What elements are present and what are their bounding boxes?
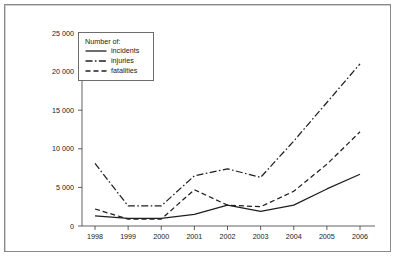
x-tick-label: 1999 — [120, 232, 136, 241]
series-line-injuries — [95, 64, 360, 206]
legend-label: fatalities — [111, 66, 137, 76]
legend-entry-list: incidentsinjuriesfatalities — [85, 46, 153, 76]
x-tick-label: 2003 — [253, 232, 269, 241]
x-tick-label: 2005 — [319, 232, 335, 241]
legend-swatch-fatalities — [85, 67, 107, 75]
legend-entry-fatalities: fatalities — [85, 66, 153, 76]
x-tick-label: 2006 — [352, 232, 368, 241]
legend-swatch-incidents — [85, 47, 107, 55]
x-tick-label: 2001 — [186, 232, 202, 241]
y-tick-label: 25 000 — [52, 29, 74, 38]
legend-entry-incidents: incidents — [85, 46, 153, 56]
x-tick-label: 2000 — [153, 232, 169, 241]
legend-entry-injuries: injuries — [85, 56, 153, 66]
legend-title: Number of: — [85, 37, 153, 46]
legend-swatch-injuries — [85, 57, 107, 65]
figure-root: 05 00010 00015 00020 00025 000 199819992… — [0, 0, 405, 267]
chart-legend: Number of: incidentsinjuriesfatalities — [78, 32, 154, 81]
x-tick-label: 2004 — [286, 232, 302, 241]
y-tick-label: 20 000 — [52, 67, 74, 76]
series-line-incidents — [95, 174, 360, 218]
y-tick-label: 5 000 — [56, 183, 74, 192]
x-tick-label: 1998 — [87, 232, 103, 241]
legend-label: injuries — [111, 56, 134, 66]
y-tick-label: 10 000 — [52, 144, 74, 153]
x-tick-label: 2002 — [220, 232, 236, 241]
x-axis-ticks: 199819992000200120022003200420052006 — [87, 226, 368, 241]
y-tick-label: 0 — [70, 222, 74, 231]
line-chart-plot: 05 00010 00015 00020 00025 000 199819992… — [0, 0, 405, 267]
chart-series-group — [95, 64, 360, 219]
legend-label: incidents — [111, 46, 139, 56]
y-tick-label: 15 000 — [52, 106, 74, 115]
